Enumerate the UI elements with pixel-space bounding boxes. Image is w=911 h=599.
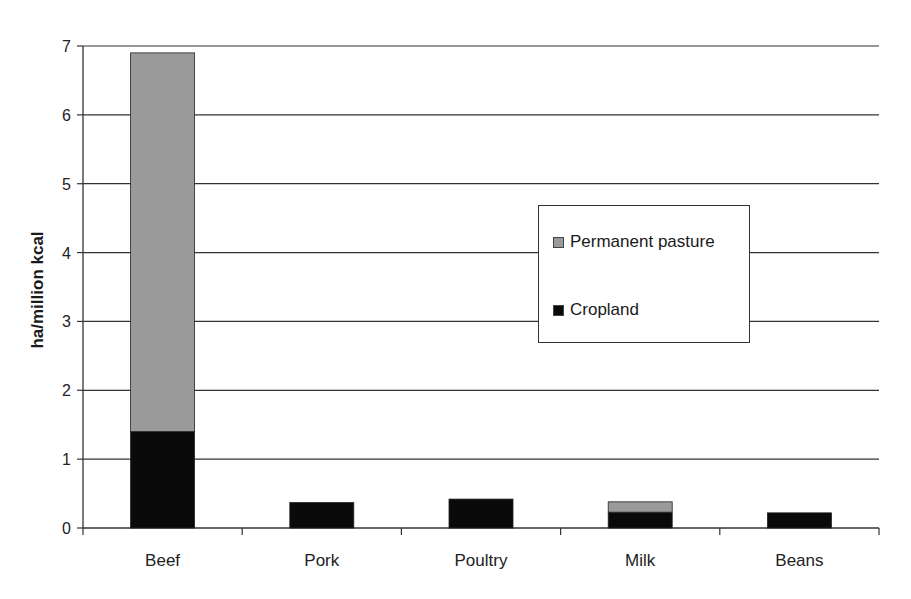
stacked-bar-chart: 01234567BeefPorkPoultryMilkBeans [0,0,911,599]
x-tick-label: Poultry [455,551,508,570]
bar-beef [131,53,195,528]
legend-item-permanent-pasture: Permanent pasture [553,232,715,252]
y-tick-label: 5 [62,176,71,193]
y-tick-label: 0 [62,520,71,537]
bar-segment-cropland [131,432,195,528]
bar-segment-cropland [290,503,354,528]
x-tick-label: Beef [145,551,180,570]
y-tick-label: 1 [62,451,71,468]
y-tick-label: 2 [62,382,71,399]
x-tick-label: Pork [304,551,339,570]
legend-item-cropland: Cropland [553,300,639,320]
x-tick-label: Milk [625,551,656,570]
bar-segment-permanent-pasture [131,53,195,432]
x-tick-label: Beans [775,551,823,570]
pasture-swatch-icon [553,237,564,248]
y-tick-label: 4 [62,245,71,262]
bar-segment-cropland [767,513,831,528]
bar-milk [608,502,672,528]
y-tick-label: 7 [62,38,71,55]
bar-segment-cropland [608,512,672,528]
bar-poultry [449,499,513,528]
legend-label: Permanent pasture [570,232,715,252]
y-tick-label: 3 [62,313,71,330]
bar-segment-cropland [449,499,513,528]
bar-beans [767,513,831,528]
y-axis-label: ha/million kcal [28,231,48,348]
bar-segment-permanent-pasture [608,502,672,512]
cropland-swatch-icon [553,305,564,316]
y-tick-label: 6 [62,107,71,124]
legend-label: Cropland [570,300,639,320]
bar-pork [290,503,354,528]
legend: Permanent pasture Cropland [538,205,750,343]
